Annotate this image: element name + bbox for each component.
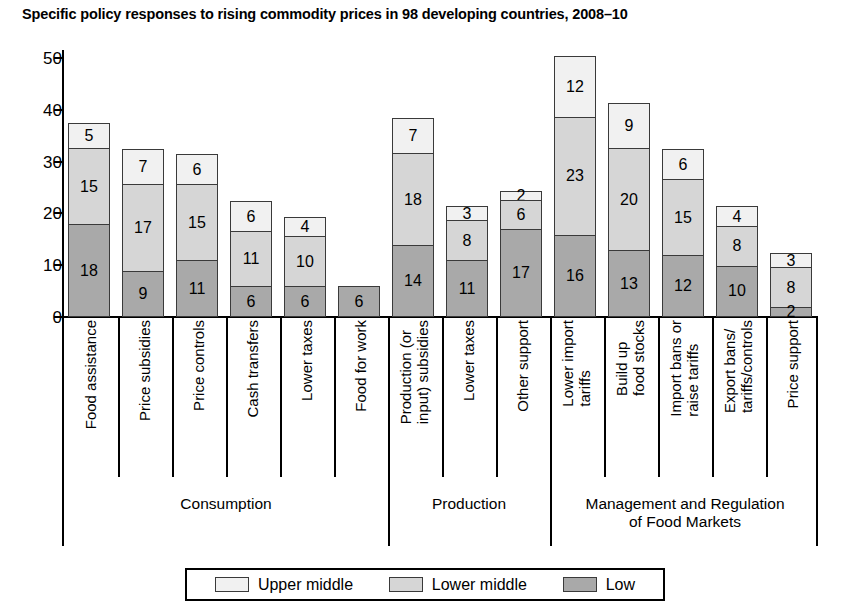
category-label: Price controls xyxy=(191,320,208,411)
bar-segment[interactable]: 8 xyxy=(770,267,812,308)
bar-segment[interactable]: 18 xyxy=(68,224,110,317)
bar-segment-value: 9 xyxy=(139,286,148,302)
bar-segment[interactable]: 15 xyxy=(662,179,704,257)
bar-segment[interactable]: 6 xyxy=(176,154,218,185)
category-label: Price subsidies xyxy=(137,320,154,421)
bar-series-container: 5151871796151161164106671814381126171223… xyxy=(62,0,818,318)
category-label: Import bans or raise tariffs xyxy=(668,320,702,417)
bar-segment[interactable]: 7 xyxy=(392,118,434,154)
y-axis-tick-mark xyxy=(54,264,62,266)
bar-segment[interactable]: 2 xyxy=(770,307,812,317)
bar-stack[interactable]: 71814 xyxy=(392,118,434,316)
bar-segment-value: 18 xyxy=(404,192,422,208)
legend-swatch xyxy=(563,577,597,592)
bar-segment[interactable]: 14 xyxy=(392,245,434,318)
group-label: Management and Regulation of Food Market… xyxy=(585,495,784,532)
category-label-cell: Production (or input) subsidies xyxy=(388,317,442,489)
y-axis-tick-mark xyxy=(54,161,62,163)
bar-segment[interactable]: 10 xyxy=(284,236,326,288)
bar-segment-value: 5 xyxy=(85,128,94,144)
category-label: Lower taxes xyxy=(461,320,478,401)
y-axis-tick-label: 10 xyxy=(28,256,62,276)
category-label-cell: Lower taxes xyxy=(442,317,496,489)
bar-segment[interactable]: 11 xyxy=(446,260,488,317)
legend-label: Lower middle xyxy=(432,576,527,594)
bar-segment[interactable]: 8 xyxy=(716,226,758,267)
bar-segment[interactable]: 6 xyxy=(338,286,380,317)
bar-segment[interactable]: 8 xyxy=(446,220,488,261)
legend-item[interactable]: Lower middle xyxy=(389,576,527,594)
bar-stack[interactable]: 61511 xyxy=(176,154,218,316)
bar-segment[interactable]: 20 xyxy=(608,148,650,252)
bar-stack[interactable]: 6 xyxy=(338,286,380,316)
bar-stack[interactable]: 7179 xyxy=(122,149,164,316)
bar-stack[interactable]: 6116 xyxy=(230,201,272,316)
bar-segment[interactable]: 12 xyxy=(662,255,704,317)
bar-segment[interactable]: 11 xyxy=(176,260,218,317)
bar-segment-value: 4 xyxy=(733,209,742,225)
bar-segment-value: 11 xyxy=(243,251,260,267)
bar-segment[interactable]: 7 xyxy=(122,149,164,185)
group-label-cell: Management and Regulation of Food Market… xyxy=(550,489,820,546)
bar-segment-value: 6 xyxy=(301,294,310,310)
category-label: Production (or input) subsidies xyxy=(398,320,432,424)
category-label-cell: Food for work xyxy=(334,317,388,489)
bar-segment[interactable]: 16 xyxy=(554,235,596,318)
bar-segment[interactable]: 23 xyxy=(554,117,596,236)
bar-segment[interactable]: 18 xyxy=(392,153,434,246)
legend-label: Upper middle xyxy=(258,576,353,594)
legend-item[interactable]: Upper middle xyxy=(215,576,353,594)
bar-stack[interactable]: 122316 xyxy=(554,56,596,316)
legend-item[interactable]: Low xyxy=(563,576,635,594)
bar-stack[interactable]: 4106 xyxy=(284,217,326,316)
category-label-cell: Lower taxes xyxy=(280,317,334,489)
bar-segment[interactable]: 15 xyxy=(176,184,218,262)
category-label-cell: Cash transfers xyxy=(226,317,280,489)
bar-segment[interactable]: 11 xyxy=(230,231,272,288)
bar-segment-value: 6 xyxy=(247,294,256,310)
bar-segment-value: 18 xyxy=(80,263,98,279)
bar-segment[interactable]: 6 xyxy=(230,286,272,317)
bar-segment[interactable]: 6 xyxy=(500,200,542,231)
bar-segment-value: 16 xyxy=(566,268,584,284)
bar-segment[interactable]: 17 xyxy=(122,184,164,272)
bar-segment[interactable]: 6 xyxy=(284,286,326,317)
bar-segment-value: 17 xyxy=(512,265,530,281)
bar-segment-value: 12 xyxy=(674,278,692,294)
bar-segment[interactable]: 6 xyxy=(662,149,704,180)
bar-segment[interactable]: 10 xyxy=(716,266,758,318)
group-label: Consumption xyxy=(180,495,271,513)
bar-segment[interactable]: 15 xyxy=(68,148,110,226)
bar-segment-value: 10 xyxy=(728,283,746,299)
category-label-cell: Price subsidies xyxy=(118,317,172,489)
bar-segment-value: 6 xyxy=(517,207,526,223)
y-axis-tick-label: 30 xyxy=(28,153,62,173)
bar-segment[interactable]: 9 xyxy=(608,103,650,150)
bar-segment[interactable]: 4 xyxy=(716,206,758,227)
bar-stack[interactable]: 382 xyxy=(770,253,812,316)
bar-segment[interactable]: 6 xyxy=(230,201,272,232)
bar-segment[interactable]: 17 xyxy=(500,229,542,317)
category-label-box: Food assistancePrice subsidiesPrice cont… xyxy=(62,317,818,489)
bar-segment[interactable]: 12 xyxy=(554,56,596,118)
group-label-cell: Production xyxy=(388,489,550,546)
bar-stack[interactable]: 4810 xyxy=(716,206,758,316)
category-label-cell: Price support xyxy=(766,317,820,489)
bar-segment[interactable]: 4 xyxy=(284,217,326,238)
bar-segment[interactable]: 13 xyxy=(608,250,650,317)
bar-segment-value: 7 xyxy=(139,159,148,175)
category-label: Lower taxes xyxy=(299,320,316,401)
bar-segment-value: 15 xyxy=(80,179,98,195)
bar-segment[interactable]: 5 xyxy=(68,123,110,149)
bar-stack[interactable]: 51518 xyxy=(68,123,110,316)
category-label-cell: Other support xyxy=(496,317,550,489)
category-label: Cash transfers xyxy=(245,320,262,418)
category-label: Food assistance xyxy=(83,320,100,429)
bar-stack[interactable]: 92013 xyxy=(608,103,650,316)
bar-stack[interactable]: 2617 xyxy=(500,191,542,316)
bar-stack[interactable]: 3811 xyxy=(446,206,488,316)
bar-segment[interactable]: 9 xyxy=(122,271,164,318)
category-label-cell: Import bans or raise tariffs xyxy=(658,317,712,489)
bar-segment-value: 15 xyxy=(188,215,206,231)
bar-stack[interactable]: 61512 xyxy=(662,149,704,316)
